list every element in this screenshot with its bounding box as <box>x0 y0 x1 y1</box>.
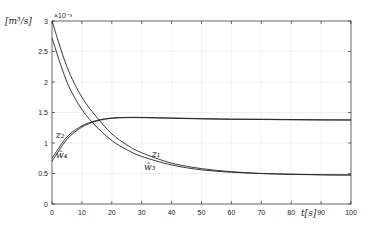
y-scale-exponent: ×10⁻³ <box>54 12 73 19</box>
x-tick-label: 0 <box>50 209 54 216</box>
x-axis-label: t[s] <box>301 208 317 218</box>
y-tick-label: 0 <box>44 201 48 208</box>
y-tick-label: 2.5 <box>38 48 48 55</box>
y-axis-label: [m³/s] <box>5 16 32 26</box>
x-tick-label: 90 <box>317 209 325 216</box>
x-tick-label: 100 <box>345 209 357 216</box>
label-z1: z₁ <box>151 149 160 159</box>
y-tick-label: 0.5 <box>38 170 48 177</box>
x-tick-label: 10 <box>78 209 86 216</box>
x-tick-label: 20 <box>108 209 116 216</box>
x-tick-label: 50 <box>198 209 206 216</box>
y-tick-label: 1.5 <box>38 109 48 116</box>
y-tick-label: 1 <box>44 140 48 147</box>
y-tick-label: 2 <box>44 79 48 86</box>
label-w4: ŵ₄ <box>56 150 68 160</box>
x-tick-label: 30 <box>138 209 146 216</box>
x-tick-label: 80 <box>287 209 295 216</box>
line-chart: 010203040506070809010000.511.522.53[m³/s… <box>0 0 372 226</box>
label-z2: z₂ <box>55 130 65 140</box>
y-tick-label: 3 <box>44 18 48 25</box>
x-tick-label: 40 <box>168 209 176 216</box>
label-w3: ŵ₃ <box>144 162 156 172</box>
x-tick-label: 70 <box>257 209 265 216</box>
x-tick-label: 60 <box>228 209 236 216</box>
